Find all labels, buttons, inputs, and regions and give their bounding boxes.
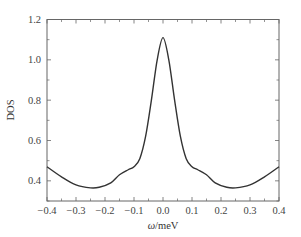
- y-tick-label: 0.4: [28, 175, 42, 186]
- dos-curve: [47, 38, 279, 188]
- y-axis-ticks: 0.40.60.81.01.2: [28, 14, 279, 201]
- x-tick-label: −0.4: [37, 205, 57, 216]
- x-tick-label: 0.3: [243, 205, 256, 216]
- y-axis-label: DOS: [5, 99, 16, 120]
- y-tick-label: 0.8: [28, 95, 41, 106]
- y-tick-label: 1.0: [28, 54, 41, 65]
- plot-frame: [47, 20, 279, 202]
- x-tick-label: 0.1: [185, 205, 198, 216]
- x-tick-label: −0.1: [124, 205, 143, 216]
- dos-chart: −0.4−0.3−0.2−0.10.00.10.20.30.4 0.40.60.…: [0, 0, 301, 237]
- x-tick-label: −0.3: [66, 205, 85, 216]
- y-tick-label: 0.6: [28, 135, 41, 146]
- x-tick-label: −0.2: [95, 205, 114, 216]
- y-tick-label: 1.2: [28, 14, 41, 25]
- x-tick-label: 0.4: [272, 205, 286, 216]
- x-axis-ticks: −0.4−0.3−0.2−0.10.00.10.20.30.4: [37, 20, 286, 217]
- x-tick-label: 0.0: [156, 205, 169, 216]
- x-axis-label: ω/meV: [148, 220, 179, 231]
- x-tick-label: 0.2: [214, 205, 227, 216]
